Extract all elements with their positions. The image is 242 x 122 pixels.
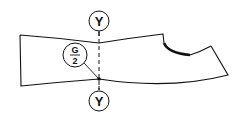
- callout-numerator: G: [71, 45, 78, 55]
- gap-callout: G 2: [63, 43, 99, 79]
- section-marker-top: Y: [89, 11, 109, 31]
- section-marker-bottom: Y: [89, 91, 109, 111]
- section-label-bottom: Y: [95, 94, 104, 109]
- diagram-canvas: Y Y G 2: [0, 0, 242, 122]
- workpiece-outline: [20, 34, 228, 86]
- notch-arc: [164, 43, 190, 55]
- callout-leader: [84, 63, 99, 79]
- notch-to-right-edge: [190, 46, 211, 55]
- callout-denominator: 2: [72, 56, 77, 66]
- section-label-top: Y: [95, 14, 104, 29]
